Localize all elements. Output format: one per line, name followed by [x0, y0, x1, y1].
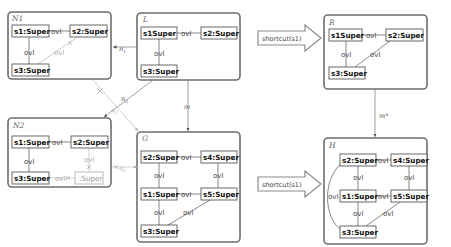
- graph-h: H ovl ovl ovl ovl ovl ovl ovl s2:Super s…: [324, 138, 429, 244]
- morphism-m-label: m: [184, 103, 190, 111]
- node-s4: s4:Super: [201, 151, 239, 163]
- edge-label: ovl: [154, 209, 164, 217]
- edge-label: ovl: [52, 139, 62, 147]
- graph-l: L ovl ovl s1Super s2:Super s3:Super: [137, 13, 240, 80]
- node-s3: s3:Super: [141, 225, 179, 237]
- edge-label: ovl: [84, 156, 94, 164]
- svg-text:s1Super: s1Super: [143, 29, 177, 38]
- svg-text:s2:Super: s2:Super: [203, 29, 239, 38]
- node-deleted: :Super: [75, 172, 103, 184]
- node-s2: s2:Super: [141, 151, 179, 163]
- node-s3: s3:Super: [329, 67, 367, 79]
- edge-label: ovl: [51, 28, 61, 36]
- graph-n2: N2 ovl ovl ovl ovl s1:Super s2:Super s3:…: [8, 118, 111, 187]
- svg-text:s5:Super: s5:Super: [203, 190, 239, 199]
- edge-label: ovl: [353, 210, 363, 218]
- svg-text:s1:Super: s1:Super: [143, 190, 179, 199]
- edge-label: ovl: [154, 50, 164, 58]
- edge-label: ovl: [341, 51, 351, 59]
- edge-label: ovl: [328, 193, 338, 201]
- node-s1: s1:Super: [12, 25, 50, 37]
- svg-text:s1Super: s1Super: [331, 31, 365, 40]
- edge-label: ovl: [154, 172, 164, 180]
- svg-text:s4:Super: s4:Super: [203, 153, 239, 162]
- edge-label: ovl: [54, 49, 64, 57]
- diagram-canvas: N1 ovl ovl ovl s1:Super s2:Super s3:Supe…: [0, 0, 451, 247]
- edge-label: ovl: [378, 193, 388, 201]
- edge-label: ovl: [24, 158, 34, 166]
- svg-text:s1:Super: s1:Super: [14, 27, 50, 36]
- svg-text:s2:Super: s2:Super: [73, 138, 109, 147]
- svg-text:s3:Super: s3:Super: [14, 66, 50, 75]
- edge-label: ovl: [183, 209, 193, 217]
- svg-text:s1:Super: s1:Super: [342, 192, 378, 201]
- node-s2: s2:Super: [386, 29, 424, 41]
- graph-g-title: G: [142, 134, 148, 143]
- graph-n1-title: N1: [11, 14, 23, 23]
- node-s1: s1:Super: [340, 190, 378, 202]
- node-s2: s2:Super: [340, 154, 378, 166]
- svg-text:s4:Super: s4:Super: [393, 156, 429, 165]
- svg-text:s3:Super: s3:Super: [331, 69, 367, 78]
- svg-text:s3:Super: s3:Super: [342, 228, 378, 237]
- morphism-m-star-label: m*: [379, 112, 389, 120]
- node-s2: s2:Super: [71, 136, 109, 148]
- graph-n2-title: N2: [12, 121, 25, 130]
- svg-text:s1:Super: s1:Super: [14, 138, 50, 147]
- edge-label: ovl: [181, 191, 191, 199]
- edge-label: ovl: [404, 174, 414, 182]
- node-s5: s5:Super: [391, 190, 429, 202]
- morphism-n2-label: n2: [121, 95, 128, 104]
- node-s3: s3:Super: [141, 65, 179, 77]
- node-s1: s1:Super: [141, 188, 179, 200]
- node-s4: s4:Super: [391, 154, 429, 166]
- svg-text:s3:Super: s3:Super: [14, 174, 50, 183]
- graph-h-title: H: [328, 141, 336, 150]
- graph-n1: N1 ovl ovl ovl s1:Super s2:Super s3:Supe…: [8, 12, 111, 79]
- graph-l-title: L: [142, 15, 148, 24]
- edge-label: ovl: [366, 32, 376, 40]
- node-s1: s1Super: [329, 29, 365, 41]
- svg-text:s2:Super: s2:Super: [342, 156, 378, 165]
- edge-label: ovl: [181, 154, 191, 162]
- svg-text:s2:Super: s2:Super: [72, 27, 108, 36]
- edge-label: ovl: [353, 174, 363, 182]
- edge-label: ovl: [213, 172, 223, 180]
- edge-label: ovl: [378, 157, 388, 165]
- node-s2: s2:Super: [70, 25, 108, 37]
- edge-label: ovl: [181, 30, 191, 38]
- transformation-arrow-bottom: shortcut(s1): [258, 171, 321, 197]
- node-s1: s1Super: [141, 27, 177, 39]
- svg-text::Super: :Super: [79, 174, 103, 183]
- node-s5: s5:Super: [201, 188, 239, 200]
- graph-r-title: R: [328, 18, 335, 27]
- svg-text:s3:Super: s3:Super: [143, 67, 179, 76]
- transformation-label: shortcut(s1): [262, 35, 302, 43]
- morphism-n1-label: n1: [119, 45, 126, 54]
- node-s2: s2:Super: [201, 27, 239, 39]
- svg-text:s2:Super: s2:Super: [143, 153, 179, 162]
- node-s1: s1:Super: [12, 136, 50, 148]
- svg-text:s2:Super: s2:Super: [388, 31, 424, 40]
- graph-g: G ovl ovl ovl ovl ovl ovl s2:Super s4:Su…: [137, 132, 240, 242]
- edge-label: ovl: [24, 49, 34, 57]
- edge-label: ovl: [370, 51, 380, 59]
- node-s3: s3:Super: [340, 226, 378, 238]
- node-s3: s3:Super: [12, 64, 50, 76]
- transformation-label: shortcut(s1): [262, 181, 302, 189]
- edge-label: ovl: [55, 175, 65, 183]
- morphism-q1-label: q1: [119, 164, 126, 173]
- graph-r: R ovl ovl ovl s1Super s2:Super s3:Super: [324, 15, 427, 89]
- node-s3: s3:Super: [12, 172, 50, 184]
- transformation-arrow-top: shortcut(s1): [258, 25, 321, 51]
- edge-label: ovl: [383, 210, 393, 218]
- svg-text:s3:Super: s3:Super: [143, 227, 179, 236]
- svg-text:s5:Super: s5:Super: [393, 192, 429, 201]
